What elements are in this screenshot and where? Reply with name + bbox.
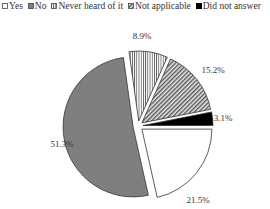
slice-percent-label: 21.5% (186, 195, 210, 205)
slice-percent-label: 3.1% (214, 113, 233, 123)
slice-yes (142, 129, 212, 197)
slice-percent-label: 8.9% (133, 31, 152, 41)
slice-percent-label: 51.3% (50, 139, 74, 149)
pie-slices (63, 51, 213, 197)
slice-percent-label: 15.2% (201, 65, 225, 75)
pie-chart: 21.5%51.3%8.9%15.2%3.1% (0, 0, 270, 209)
